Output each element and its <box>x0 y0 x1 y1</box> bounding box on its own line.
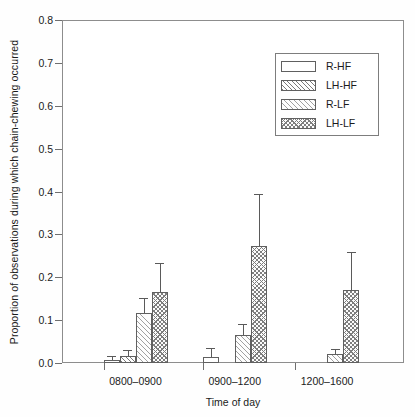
x-axis-tick-label: 0800–0900 <box>109 375 162 387</box>
legend-label: R-HF <box>326 60 351 72</box>
x-axis-tick <box>295 363 296 370</box>
y-axis-tick <box>55 277 62 278</box>
y-axis-tick <box>55 234 62 235</box>
x-axis-tick-label: 1200–1600 <box>301 375 354 387</box>
y-axis-tick <box>55 363 62 364</box>
x-axis-title: Time of day <box>62 396 404 408</box>
error-bar-cap-r-hf-group1 <box>107 356 116 357</box>
legend-swatch-r-lf <box>281 99 316 110</box>
y-axis-tick-label: 0.1 <box>38 315 53 326</box>
y-axis-title-text: Proportion of observations during which … <box>8 39 20 343</box>
error-bar-cap-r-lf-group1 <box>139 298 148 299</box>
y-axis-tick <box>55 149 62 150</box>
y-axis-tick-label: 0.6 <box>38 101 53 112</box>
error-bar-r-lf-group1 <box>144 298 145 313</box>
error-bar-cap-r-lf-group2 <box>238 324 247 325</box>
legend: R-HFLH-HFR-LFLH-LF <box>275 53 379 136</box>
x-axis-tick <box>104 363 105 370</box>
error-bar-cap-r-lf-group3 <box>331 349 340 350</box>
legend-label: LH-LF <box>326 117 355 129</box>
y-axis-tick-label: 0.0 <box>38 358 53 369</box>
y-axis-tick <box>55 320 62 321</box>
legend-label: R-LF <box>326 98 349 110</box>
legend-item-lh-lf: LH-LF <box>281 116 373 130</box>
error-bar-lh-lf-group1 <box>160 263 161 292</box>
error-bar-cap-lh-lf-group1 <box>155 263 164 264</box>
error-bar-lh-lf-group3 <box>351 252 352 291</box>
y-axis-tick <box>55 192 62 193</box>
y-axis-title: Proportion of observations during which … <box>6 20 22 363</box>
error-bar-lh-lf-group2 <box>259 194 260 246</box>
legend-swatch-lh-hf <box>281 80 316 91</box>
y-axis-tick-label: 0.7 <box>38 58 53 69</box>
y-axis-tick-label: 0.2 <box>38 272 53 283</box>
y-axis-tick-label: 0.5 <box>38 143 53 154</box>
error-bar-cap-lh-lf-group2 <box>254 194 263 195</box>
chart-figure: Proportion of observations during which … <box>0 0 415 417</box>
bar-r-hf-group2 <box>203 357 219 363</box>
bar-r-lf-group3 <box>327 354 343 363</box>
y-axis-tick-label: 0.3 <box>38 229 53 240</box>
error-bar-r-lf-group2 <box>243 324 244 336</box>
bar-lh-lf-group1 <box>152 292 168 363</box>
legend-label: LH-HF <box>326 79 357 91</box>
x-axis-tick <box>203 363 204 370</box>
error-bar-cap-lh-hf-group1 <box>123 350 132 351</box>
x-axis-tick-label: 0900–1200 <box>208 375 261 387</box>
bar-lh-lf-group3 <box>343 290 359 363</box>
bar-r-hf-group1 <box>104 360 120 363</box>
error-bar-r-hf-group2 <box>211 348 212 357</box>
legend-item-r-lf: R-LF <box>281 97 373 111</box>
error-bar-cap-lh-lf-group3 <box>347 252 356 253</box>
legend-item-r-hf: R-HF <box>281 59 373 73</box>
bar-r-lf-group1 <box>136 313 152 363</box>
legend-item-lh-hf: LH-HF <box>281 78 373 92</box>
bar-r-lf-group2 <box>235 335 251 363</box>
y-axis-tick <box>55 20 62 21</box>
y-axis-tick <box>55 63 62 64</box>
y-axis-tick <box>55 106 62 107</box>
legend-swatch-lh-lf <box>281 118 316 129</box>
bar-lh-lf-group2 <box>251 246 267 363</box>
error-bar-cap-r-hf-group2 <box>206 348 215 349</box>
y-axis-tick-label: 0.4 <box>38 186 53 197</box>
y-axis-tick-label: 0.8 <box>38 15 53 26</box>
legend-swatch-r-hf <box>281 61 316 72</box>
bar-lh-hf-group1 <box>120 356 136 363</box>
